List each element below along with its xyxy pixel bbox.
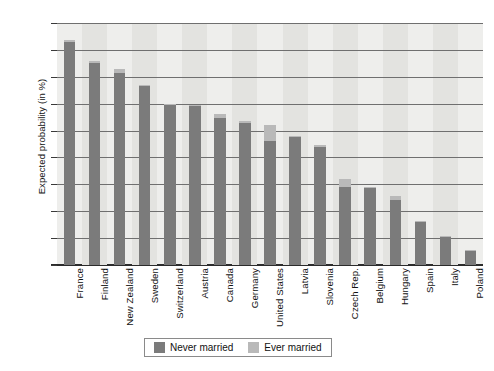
- bar-segment-ever-married: [339, 179, 351, 187]
- x-axis-label: Switzerland: [174, 268, 185, 319]
- y-tick-mark: [51, 131, 57, 132]
- bar-segment-ever-married: [89, 61, 101, 64]
- y-tick-mark: [51, 265, 57, 266]
- y-tick-mark: [51, 23, 57, 24]
- bar-segment-ever-married: [415, 221, 427, 222]
- bar-segment-never-married: [339, 187, 351, 265]
- bar-segment-ever-married: [239, 121, 251, 122]
- y-tick-mark: [51, 77, 57, 78]
- bar-group[interactable]: [114, 23, 126, 265]
- bar-segment-never-married: [264, 141, 276, 265]
- y-tick-mark: [51, 184, 57, 185]
- bar-group[interactable]: [139, 23, 151, 265]
- legend-swatch-icon: [154, 342, 165, 353]
- bar-segment-ever-married: [164, 104, 176, 105]
- bar-group[interactable]: [415, 23, 427, 265]
- bar-group[interactable]: [440, 23, 452, 265]
- bar-group[interactable]: [289, 23, 301, 265]
- bar-segment-never-married: [164, 105, 176, 265]
- legend-item[interactable]: Never married: [154, 342, 233, 353]
- bar-segment-never-married: [189, 106, 201, 265]
- x-axis-label: Finland: [99, 268, 110, 300]
- y-tick-mark: [51, 50, 57, 51]
- x-axis-label: United States: [274, 268, 285, 327]
- bar-segment-never-married: [89, 63, 101, 265]
- bar-group[interactable]: [239, 23, 251, 265]
- x-axis-label: Poland: [474, 268, 485, 298]
- y-tick-mark: [51, 238, 57, 239]
- bar-segment-never-married: [139, 86, 151, 265]
- x-axis-label: New Zealand: [124, 268, 135, 326]
- bar-group[interactable]: [189, 23, 201, 265]
- x-axis-label: Spain: [424, 268, 435, 293]
- bar-group[interactable]: [465, 23, 477, 265]
- bar-segment-never-married: [214, 118, 226, 265]
- bar-group[interactable]: [314, 23, 326, 265]
- plot-area: 0102030405060708090: [57, 23, 483, 265]
- x-axis-label: Hungary: [399, 268, 410, 305]
- bar-segment-ever-married: [189, 105, 201, 106]
- legend-label: Ever married: [264, 342, 321, 353]
- bar-segment-ever-married: [114, 69, 126, 73]
- bar-group[interactable]: [364, 23, 376, 265]
- bar-segment-ever-married: [214, 114, 226, 118]
- y-tick-mark: [51, 104, 57, 105]
- bar-segment-never-married: [114, 73, 126, 265]
- x-axis-label: Latvia: [299, 268, 310, 294]
- bar-group[interactable]: [214, 23, 226, 265]
- bar-segment-ever-married: [390, 196, 402, 200]
- bar-group[interactable]: [264, 23, 276, 265]
- bar-segment-never-married: [440, 237, 452, 265]
- x-axis-label: Canada: [224, 268, 235, 302]
- x-axis-label: Austria: [199, 268, 210, 299]
- bar-segment-never-married: [289, 137, 301, 265]
- bar-group[interactable]: [164, 23, 176, 265]
- legend-label: Never married: [170, 342, 233, 353]
- chart-legend: Never marriedEver married: [144, 338, 332, 357]
- x-axis-label: France: [74, 268, 85, 298]
- bar-segment-ever-married: [139, 85, 151, 86]
- bar-segment-never-married: [364, 188, 376, 265]
- x-axis-label: Czech Rep.: [349, 268, 360, 319]
- bar-segment-never-married: [465, 250, 477, 265]
- bar-segment-never-married: [415, 222, 427, 265]
- bar-segment-ever-married: [264, 125, 276, 141]
- legend-item[interactable]: Ever married: [248, 342, 321, 353]
- y-tick-mark: [51, 157, 57, 158]
- bar-segment-never-married: [64, 42, 76, 265]
- bar-group[interactable]: [390, 23, 402, 265]
- bar-chart: Expected probability (in %) 010203040506…: [0, 0, 494, 371]
- bar-segment-ever-married: [289, 136, 301, 137]
- x-axis-label: Sweden: [149, 268, 160, 303]
- bar-segment-ever-married: [64, 40, 76, 41]
- bar-segment-never-married: [314, 147, 326, 265]
- bar-segment-ever-married: [440, 236, 452, 237]
- x-axis-label: Slovenia: [324, 268, 335, 306]
- bar-segment-ever-married: [314, 145, 326, 146]
- x-axis-label: Germany: [249, 268, 260, 308]
- bar-segment-ever-married: [364, 187, 376, 188]
- legend-swatch-icon: [248, 342, 259, 353]
- x-axis-label: Italy: [449, 268, 460, 286]
- bar-segment-never-married: [239, 123, 251, 266]
- bar-segment-ever-married: [465, 250, 477, 251]
- bar-group[interactable]: [64, 23, 76, 265]
- bar-group[interactable]: [339, 23, 351, 265]
- y-axis-title: Expected probability (in %): [36, 12, 47, 262]
- x-axis-label: Belgium: [374, 268, 385, 303]
- x-axis-labels: FranceFinlandNew ZealandSwedenSwitzerlan…: [57, 268, 483, 346]
- bar-segment-never-married: [390, 200, 402, 265]
- y-tick-mark: [51, 211, 57, 212]
- bar-group[interactable]: [89, 23, 101, 265]
